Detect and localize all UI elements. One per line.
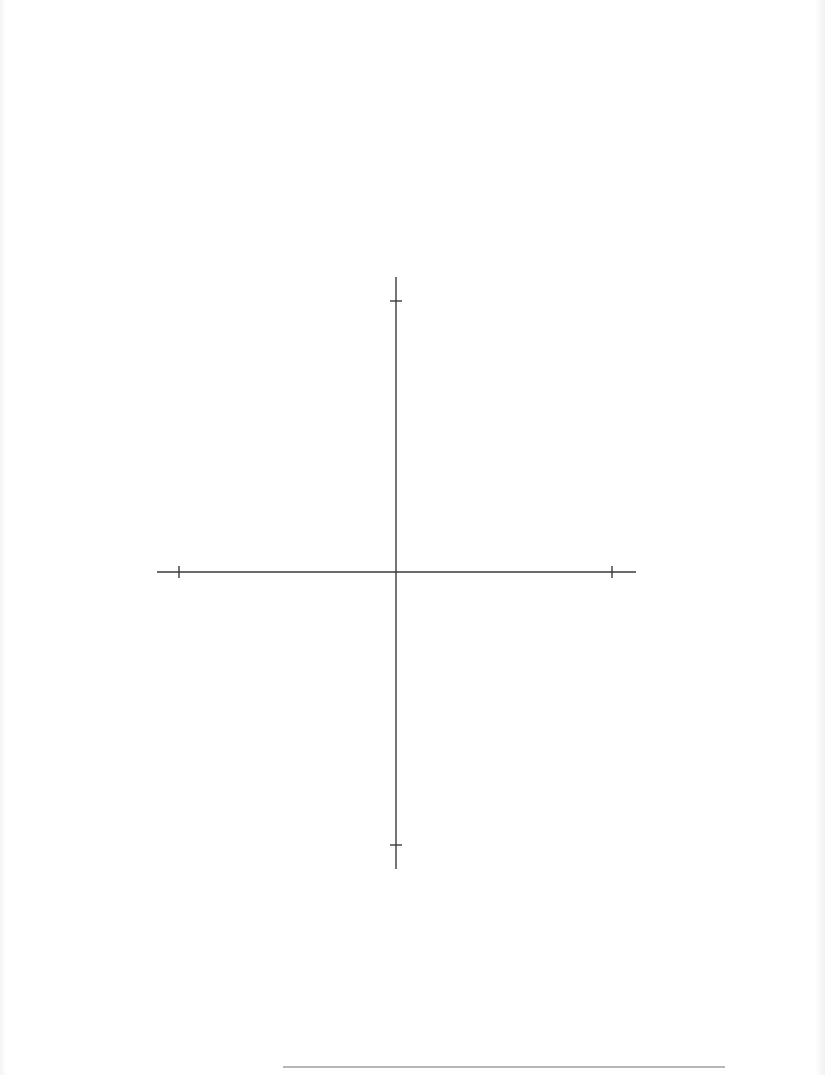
axes-figure <box>0 0 825 1075</box>
document-page <box>0 0 825 1075</box>
coordinate-axes <box>157 277 636 869</box>
